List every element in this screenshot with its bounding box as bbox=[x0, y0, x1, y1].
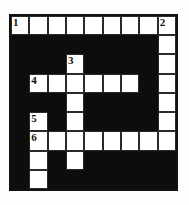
crossword-cell-open[interactable] bbox=[158, 93, 176, 112]
crossword-cell-block bbox=[158, 151, 176, 170]
crossword-cell-block bbox=[139, 93, 157, 112]
crossword-cell-block bbox=[66, 170, 84, 189]
crossword-cell-open[interactable] bbox=[66, 131, 84, 150]
cell-number-2: 2 bbox=[160, 16, 166, 29]
crossword-cell-open[interactable] bbox=[158, 54, 176, 73]
crossword-cell-block bbox=[48, 151, 66, 170]
crossword-cell-open[interactable] bbox=[48, 16, 66, 35]
crossword-cell-block bbox=[29, 93, 47, 112]
crossword-cell-open[interactable] bbox=[29, 16, 47, 35]
crossword-cell-open[interactable] bbox=[66, 74, 84, 93]
crossword-cell-block bbox=[29, 54, 47, 73]
crossword-cell-block bbox=[139, 112, 157, 131]
crossword-cell-open[interactable] bbox=[84, 74, 102, 93]
crossword-cell-open[interactable]: 5 bbox=[29, 112, 47, 131]
crossword-cell-block bbox=[66, 35, 84, 54]
cell-number-3: 3 bbox=[68, 54, 74, 67]
crossword-cell-open[interactable] bbox=[66, 151, 84, 170]
crossword-cell-open[interactable] bbox=[158, 131, 176, 150]
crossword-cell-open[interactable] bbox=[66, 93, 84, 112]
crossword-cell-open[interactable] bbox=[139, 131, 157, 150]
crossword-cell-block bbox=[121, 170, 139, 189]
crossword-cell-open[interactable]: 3 bbox=[66, 54, 84, 73]
crossword-cell-block bbox=[11, 170, 29, 189]
crossword-cell-open[interactable]: 6 bbox=[29, 131, 47, 150]
crossword-cell-block bbox=[121, 151, 139, 170]
page-top-margin bbox=[0, 0, 189, 5]
crossword-grid[interactable]: 123456 bbox=[9, 14, 178, 191]
crossword-cell-open[interactable] bbox=[158, 112, 176, 131]
crossword-cell-open[interactable]: 4 bbox=[29, 74, 47, 93]
crossword-cell-block bbox=[11, 35, 29, 54]
crossword-cell-block bbox=[103, 151, 121, 170]
crossword-cell-open[interactable] bbox=[103, 131, 121, 150]
crossword-cell-open[interactable] bbox=[103, 16, 121, 35]
crossword-cell-block bbox=[139, 170, 157, 189]
crossword-cell-open[interactable] bbox=[48, 74, 66, 93]
crossword-cell-open[interactable] bbox=[29, 151, 47, 170]
crossword-cell-block bbox=[29, 35, 47, 54]
crossword-cell-block bbox=[11, 54, 29, 73]
crossword-cell-block bbox=[84, 54, 102, 73]
crossword-cell-block bbox=[139, 54, 157, 73]
crossword-cell-block bbox=[11, 131, 29, 150]
crossword-cell-block bbox=[11, 93, 29, 112]
crossword-cell-open[interactable]: 1 bbox=[11, 16, 29, 35]
crossword-cell-block bbox=[48, 93, 66, 112]
crossword-cell-block bbox=[11, 74, 29, 93]
crossword-cell-open[interactable] bbox=[121, 131, 139, 150]
crossword-cell-block bbox=[48, 54, 66, 73]
crossword-cell-block bbox=[139, 74, 157, 93]
crossword-cell-block bbox=[139, 35, 157, 54]
crossword-cell-open[interactable] bbox=[84, 131, 102, 150]
crossword-cell-block bbox=[158, 170, 176, 189]
crossword-cell-block bbox=[84, 112, 102, 131]
crossword-cell-open[interactable] bbox=[121, 16, 139, 35]
crossword-cell-block bbox=[103, 170, 121, 189]
crossword-cell-block bbox=[48, 112, 66, 131]
crossword-cell-open[interactable] bbox=[29, 170, 47, 189]
cell-number-5: 5 bbox=[31, 112, 37, 125]
cell-number-1: 1 bbox=[13, 16, 19, 29]
crossword-cell-open[interactable] bbox=[103, 74, 121, 93]
cell-number-4: 4 bbox=[31, 74, 37, 87]
crossword-cell-block bbox=[121, 35, 139, 54]
crossword-cell-block bbox=[84, 93, 102, 112]
crossword-cell-open[interactable] bbox=[66, 16, 84, 35]
crossword-cell-block bbox=[84, 151, 102, 170]
crossword-cell-open[interactable] bbox=[48, 131, 66, 150]
crossword-cell-block bbox=[84, 35, 102, 54]
crossword-cell-block bbox=[103, 93, 121, 112]
crossword-cell-block bbox=[139, 151, 157, 170]
crossword-cell-block bbox=[103, 54, 121, 73]
crossword-cell-block bbox=[103, 35, 121, 54]
crossword-cell-block bbox=[48, 35, 66, 54]
crossword-cell-block bbox=[121, 54, 139, 73]
crossword-cell-block bbox=[11, 112, 29, 131]
crossword-cell-block bbox=[121, 93, 139, 112]
crossword-cell-block bbox=[121, 112, 139, 131]
crossword-cell-block bbox=[84, 170, 102, 189]
crossword-cell-block bbox=[103, 112, 121, 131]
crossword-cell-open[interactable] bbox=[66, 112, 84, 131]
crossword-cell-open[interactable] bbox=[158, 35, 176, 54]
crossword-cell-open[interactable] bbox=[84, 16, 102, 35]
crossword-cell-open[interactable] bbox=[158, 74, 176, 93]
crossword-cell-open[interactable] bbox=[139, 16, 157, 35]
cell-number-6: 6 bbox=[31, 131, 37, 144]
crossword-page: 123456 bbox=[0, 0, 189, 205]
crossword-cell-block bbox=[48, 170, 66, 189]
crossword-cell-open[interactable] bbox=[121, 74, 139, 93]
crossword-cell-block bbox=[11, 151, 29, 170]
crossword-cell-open[interactable]: 2 bbox=[158, 16, 176, 35]
